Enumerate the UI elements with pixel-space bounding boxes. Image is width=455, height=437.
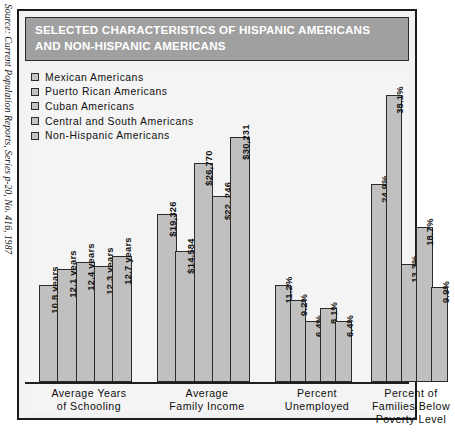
chart-title-line-2: AND NON-HISPANIC AMERICANS	[35, 38, 408, 54]
bar-value-label: 9.2%	[298, 294, 309, 316]
bar-value-label: 12.7 years	[122, 237, 133, 284]
chart-title-line-1: SELECTED CHARACTERISTICS OF HISPANIC AME…	[35, 22, 408, 38]
bar[interactable]: 12.3 years	[94, 266, 114, 382]
legend-item-label: Central and South Americans	[45, 116, 194, 127]
bar[interactable]: 12.4 years	[76, 262, 96, 382]
category-label: Percent ofFamilies BelowPoverty Level	[355, 387, 455, 427]
bar[interactable]: 9.9%	[431, 287, 447, 382]
bar[interactable]: 24.9%	[371, 184, 387, 382]
legend-swatch-icon	[31, 102, 39, 110]
legend-item-label: Mexican Americans	[45, 72, 144, 83]
bar[interactable]: 12.7 years	[112, 256, 132, 382]
source-credit-text: Source: Current Population Reports, Seri…	[3, 4, 13, 254]
legend-item: Cuban Americans	[31, 99, 194, 114]
bar[interactable]: $26,770	[194, 163, 214, 382]
legend-item: Non-Hispanic Americans	[31, 128, 194, 143]
legend-swatch-icon	[31, 88, 39, 96]
legend-item-label: Puerto Rican Americans	[45, 86, 167, 97]
bar[interactable]: 8.1%	[320, 308, 336, 382]
bar[interactable]: $30,231	[230, 137, 250, 382]
bar[interactable]: 10.8 years	[39, 285, 59, 382]
bar-value-label: 9.9%	[440, 281, 451, 303]
legend-item-label: Cuban Americans	[45, 101, 135, 112]
category-label-line: Families Below	[355, 400, 455, 413]
bar-value-label: $26,770	[203, 150, 214, 185]
legend-swatch-icon	[31, 73, 39, 81]
bar-group: 24.9%38.1%13.3%18.7%9.9%	[371, 65, 453, 382]
bar[interactable]: 12.1 years	[57, 269, 77, 382]
legend-item: Central and South Americans	[31, 114, 194, 129]
category-label-line: Average Years	[29, 387, 149, 400]
plot-area: Mexican AmericansPuerto Rican AmericansC…	[25, 65, 409, 412]
legend-item-label: Non-Hispanic Americans	[45, 130, 170, 141]
category-label-line: Family Income	[147, 400, 267, 413]
bar-value-label: 18.7%	[424, 218, 435, 246]
chart-legend: Mexican AmericansPuerto Rican AmericansC…	[31, 70, 194, 143]
category-label-line: Percent of	[355, 387, 455, 400]
bar[interactable]: 9.2%	[290, 300, 306, 382]
legend-swatch-icon	[31, 132, 39, 140]
bar[interactable]: 6.4%	[335, 321, 351, 382]
legend-swatch-icon	[31, 117, 39, 125]
bar[interactable]: 38.1%	[386, 95, 402, 382]
bar-group: 11.2%9.2%6.4%8.1%6.4%	[275, 65, 357, 382]
category-label: AverageFamily Income	[147, 387, 267, 413]
bar[interactable]: 6.4%	[305, 321, 321, 382]
bar[interactable]: 11.2%	[275, 285, 291, 382]
category-label-line: Average	[147, 387, 267, 400]
bar[interactable]: $14,584	[175, 251, 195, 382]
bar-value-label: 38.1%	[394, 86, 405, 114]
bar-value-label: $30,231	[240, 124, 251, 159]
category-label-line: of Schooling	[29, 400, 149, 413]
chart-title-band: SELECTED CHARACTERISTICS OF HISPANIC AME…	[25, 17, 409, 61]
category-label: Average Yearsof Schooling	[29, 387, 149, 413]
bar[interactable]: 13.3%	[401, 264, 417, 382]
category-labels: Average Yearsof SchoolingAverageFamily I…	[25, 387, 409, 437]
legend-item: Puerto Rican Americans	[31, 85, 194, 100]
bar[interactable]: $22, 246	[212, 196, 232, 382]
source-credit: Source: Current Population Reports, Seri…	[0, 0, 16, 300]
axis-baseline	[25, 382, 409, 384]
bar-value-label: $19,326	[167, 201, 178, 236]
category-label-line: Poverty Level	[355, 413, 455, 426]
bar[interactable]: 18.7%	[416, 227, 432, 382]
bar[interactable]: $19,326	[157, 214, 177, 382]
chart-figure: SELECTED CHARACTERISTICS OF HISPANIC AME…	[17, 9, 417, 420]
bar-value-label: 6.4%	[344, 315, 355, 337]
legend-item: Mexican Americans	[31, 70, 194, 85]
